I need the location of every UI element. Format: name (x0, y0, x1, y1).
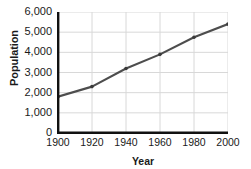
x-axis-tick-label: 2000 (208, 136, 248, 148)
y-axis-tick-label: 2,000 (0, 86, 52, 98)
y-axis-tick-label: 6,000 (0, 5, 52, 17)
plot-area (58, 12, 228, 133)
population-line-chart: Population 01,0002,0003,0004,0005,0006,0… (0, 0, 251, 169)
axis-lines (54, 12, 230, 140)
y-axis-tick-label: 1,000 (0, 106, 52, 118)
x-axis-title: Year (58, 155, 228, 167)
y-axis-tick-label: 5,000 (0, 25, 52, 37)
y-axis-tick-label: 4,000 (0, 45, 52, 57)
y-axis-tick-label: 3,000 (0, 66, 52, 78)
